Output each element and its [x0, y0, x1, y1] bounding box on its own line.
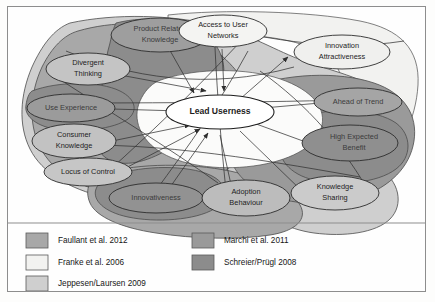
node-innovation-attractiveness[interactable]: Innovation Attractiveness	[294, 35, 390, 69]
node-label-ahead-of-trend: Ahead of Trend	[333, 97, 384, 106]
node-label-product-related-knowledge-line1: Product Related	[134, 24, 187, 33]
node-label-innovation-attractiveness-line1: Innovation	[325, 41, 359, 50]
legend-swatch-marchi	[192, 233, 214, 248]
node-label-product-related-knowledge-line2: Knowledge	[142, 35, 179, 44]
legend-label-jeppesen: Jeppesen/Laursen 2009	[58, 279, 146, 288]
node-label-high-expected-benefit-line1: High Expected	[330, 132, 378, 141]
node-label-access-to-user-networks-line2: Networks	[208, 31, 239, 40]
node-access-to-user-networks[interactable]: Access to User Networks	[179, 15, 267, 47]
node-consumer-knowledge[interactable]: Consumer Knowledge	[32, 124, 116, 158]
node-label-locus-of-control: Locus of Control	[61, 167, 115, 176]
legend-item-faullant[interactable]: Faullant et al. 2012	[26, 233, 128, 248]
legend-item-jeppesen[interactable]: Jeppesen/Laursen 2009	[26, 276, 146, 291]
diagram-canvas: Product Related Knowledge Access to User…	[8, 7, 425, 291]
node-lead-userness[interactable]: Lead Userness	[166, 95, 274, 129]
node-locus-of-control[interactable]: Locus of Control	[44, 158, 132, 186]
node-label-innovativeness: Innovativeness	[131, 193, 181, 202]
node-divergent-thinking[interactable]: Divergent Thinking	[46, 53, 130, 85]
node-label-use-experience: Use Experience	[45, 103, 97, 112]
node-knowledge-sharing[interactable]: Knowledge Sharing	[291, 176, 379, 210]
node-label-access-to-user-networks-line1: Access to User	[198, 20, 248, 29]
node-label-adoption-behaviour-line2: Behaviour	[229, 198, 263, 207]
node-label-adoption-behaviour-line1: Adoption	[231, 187, 260, 196]
legend-label-marchi: Marchi et al. 2011	[224, 236, 289, 245]
node-label-lead-userness: Lead Userness	[189, 106, 250, 116]
figure-root: Product Related Knowledge Access to User…	[0, 0, 435, 302]
node-label-innovation-attractiveness-line2: Attractiveness	[319, 52, 366, 61]
legend-swatch-jeppesen	[26, 276, 48, 291]
legend-label-faullant: Faullant et al. 2012	[58, 236, 128, 245]
legend-label-franke: Franke et al. 2006	[58, 258, 124, 267]
legend: Faullant et al. 2012 Franke et al. 2006 …	[26, 233, 297, 291]
node-label-high-expected-benefit-line2: Benefit	[342, 143, 365, 152]
node-label-consumer-knowledge-line2: Knowledge	[56, 141, 93, 150]
node-label-knowledge-sharing-line2: Sharing	[322, 193, 347, 202]
node-label-divergent-thinking-line1: Divergent	[72, 58, 104, 67]
legend-item-schreier[interactable]: Schreier/Prügl 2008	[192, 255, 297, 270]
node-ahead-of-trend[interactable]: Ahead of Trend	[314, 88, 402, 116]
node-label-divergent-thinking-line2: Thinking	[74, 69, 102, 78]
legend-label-schreier: Schreier/Prügl 2008	[224, 258, 297, 267]
legend-swatch-faullant	[26, 233, 48, 248]
node-label-knowledge-sharing-line1: Knowledge	[317, 182, 354, 191]
node-adoption-behaviour[interactable]: Adoption Behaviour	[202, 180, 290, 216]
node-high-expected-benefit[interactable]: High Expected Benefit	[302, 125, 398, 161]
node-label-consumer-knowledge-line1: Consumer	[57, 130, 92, 139]
legend-item-franke[interactable]: Franke et al. 2006	[26, 255, 124, 270]
legend-swatch-schreier	[192, 255, 214, 270]
legend-item-marchi[interactable]: Marchi et al. 2011	[192, 233, 289, 248]
node-innovativeness[interactable]: Innovativeness	[109, 183, 203, 213]
node-use-experience[interactable]: Use Experience	[27, 94, 115, 122]
legend-swatch-franke	[26, 255, 48, 270]
